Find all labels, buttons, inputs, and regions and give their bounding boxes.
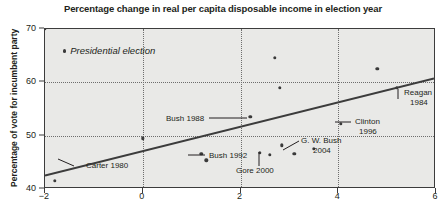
y-tick-label-60: 60: [14, 76, 36, 86]
x-tick-label-4: 4: [324, 191, 350, 201]
legend-label: Presidential election: [70, 45, 155, 56]
legend-marker-icon: [63, 49, 66, 52]
x-tick-label-6: 6: [422, 191, 446, 201]
annotation-carter-1980: Carter 1980: [86, 161, 128, 171]
y-tick-label-50: 50: [14, 130, 36, 140]
annotation-clinton-1996-line1: Clinton: [355, 117, 380, 127]
annotation-reagan-1984-line2: 1984: [410, 98, 428, 108]
x-tick-label-2: 2: [227, 191, 253, 201]
annotation-bush-1988: Bush 1988: [166, 114, 204, 124]
annotation-clinton-1996-line2: 1996: [359, 127, 377, 137]
legend: Presidential election: [63, 45, 155, 56]
chart-container: Percentage change in real per capita dis…: [0, 0, 446, 212]
annotation-bush-1992: Bush 1992: [209, 151, 247, 161]
chart-title: Percentage change in real per capita dis…: [0, 3, 446, 14]
y-axis-title: Percentage of vote for incumbent party: [9, 29, 19, 187]
annotation-reagan-1984-line1: Reagan: [404, 88, 432, 98]
annotation-gw-bush-2004-line1: G. W. Bush: [301, 136, 341, 146]
x-tick-label-neg2: −2: [31, 191, 57, 201]
y-tick-label-70: 70: [14, 23, 36, 33]
x-tick-label-0: 0: [129, 191, 155, 201]
annotation-gore-2000: Gore 2000: [236, 166, 274, 176]
annotation-gw-bush-2004-line2: 2004: [313, 146, 331, 156]
